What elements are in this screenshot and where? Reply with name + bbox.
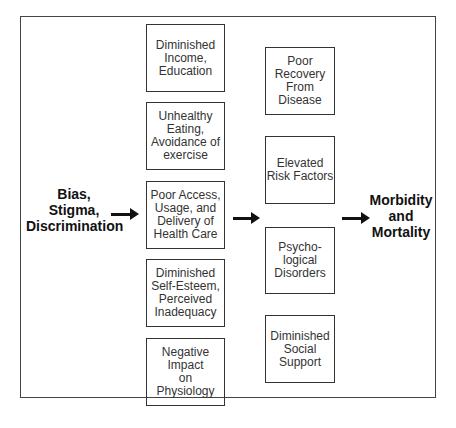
arrow-causes-to-effects [233,217,252,220]
effect-box-social-support: Diminished Social Support [265,315,335,383]
cause-box-physiology: Negative Impact on Physiology [146,338,225,406]
cause-box-unhealthy-eating: Unhealthy Eating, Avoidance of exercise [146,102,225,170]
arrow-source-to-causes [111,213,131,216]
cause-box-health-care-access: Poor Access, Usage, and Delivery of Heal… [146,181,225,249]
cause-box-self-esteem: Diminished Self-Esteem, Perceived Inadeq… [146,259,225,327]
cause-box-income-education: Diminished Income, Education [146,24,225,92]
arrow-effects-to-outcome [342,217,362,220]
effect-box-poor-recovery: Poor Recovery From Disease [265,47,335,115]
effect-box-psychological: Psycho- logical Disorders [265,227,335,294]
effect-box-elevated-risk: Elevated Risk Factors [265,136,335,204]
source-label: Bias, Stigma, Discrimination [26,186,122,234]
outcome-label: Morbidity and Mortality [360,192,442,240]
